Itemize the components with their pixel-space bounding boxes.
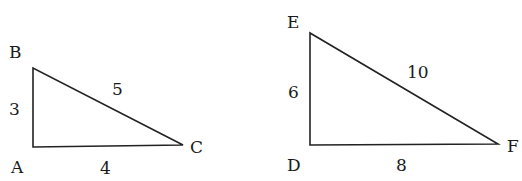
vertex-label-e: E: [287, 14, 299, 31]
vertex-label-b: B: [9, 44, 22, 61]
diagram-canvas: [0, 0, 522, 181]
vertex-label-a: A: [11, 159, 23, 176]
vertex-label-f: F: [507, 138, 519, 155]
side-label-ac: 4: [100, 160, 111, 177]
triangle-abc: [33, 68, 183, 147]
vertex-label-c: C: [190, 139, 203, 156]
side-label-ab: 3: [9, 101, 20, 118]
vertex-label-d: D: [287, 157, 301, 174]
side-label-bc: 5: [112, 81, 123, 98]
side-label-ef: 10: [407, 64, 429, 81]
triangle-def: [310, 33, 498, 145]
side-label-df: 8: [396, 157, 407, 174]
side-label-de: 6: [288, 84, 299, 101]
